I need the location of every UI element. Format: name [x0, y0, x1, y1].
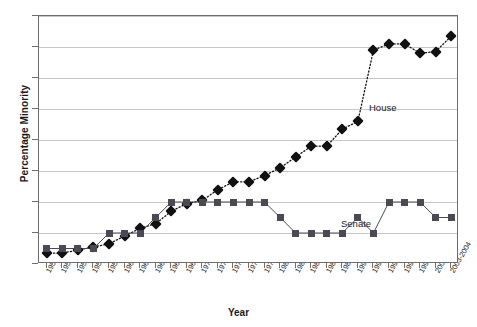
data-point-senate [152, 214, 159, 221]
gridline [39, 47, 457, 48]
data-point-house [103, 238, 114, 249]
series-label-senate: Senate [341, 218, 371, 229]
data-point-senate [292, 230, 299, 237]
data-point-house [290, 151, 301, 162]
data-point-senate [370, 230, 377, 237]
gridline [39, 16, 457, 17]
data-point-senate [432, 214, 439, 221]
data-point-senate [183, 199, 190, 206]
data-point-house [306, 141, 317, 152]
data-point-senate [417, 199, 424, 206]
data-point-senate [230, 199, 237, 206]
data-point-senate [214, 199, 221, 206]
data-point-senate [401, 199, 408, 206]
data-point-house [337, 123, 348, 134]
data-point-senate [43, 245, 50, 252]
data-point-house [446, 30, 457, 41]
data-point-senate [59, 245, 66, 252]
chart-figure: Percentage Minority 0%2%4%6%8%10%12%14%1… [0, 0, 477, 327]
gridline [39, 233, 457, 234]
data-point-senate [90, 245, 97, 252]
gridline [39, 171, 457, 172]
data-point-senate [137, 230, 144, 237]
data-point-senate [339, 230, 346, 237]
data-point-senate [277, 214, 284, 221]
gridline [39, 140, 457, 141]
series-label-house: House [369, 102, 396, 113]
data-point-senate [199, 199, 206, 206]
gridline [39, 78, 457, 79]
data-point-house [321, 141, 332, 152]
x-axis-title: Year [0, 307, 477, 318]
data-point-house [352, 116, 363, 127]
data-point-house [243, 176, 254, 187]
data-point-house [228, 176, 239, 187]
series-line-house [47, 36, 451, 253]
data-point-senate [448, 214, 455, 221]
y-axis-title: Percentage Minority [19, 44, 30, 224]
data-point-senate [386, 199, 393, 206]
data-point-house [166, 206, 177, 217]
data-point-senate [74, 245, 81, 252]
data-point-senate [323, 230, 330, 237]
plot-area: House Senate [38, 15, 458, 263]
data-point-senate [121, 230, 128, 237]
data-point-senate [261, 199, 268, 206]
data-point-house [212, 184, 223, 195]
data-point-senate [246, 199, 253, 206]
y-tick-mark [32, 263, 38, 264]
data-point-senate [106, 230, 113, 237]
data-point-senate [308, 230, 315, 237]
data-point-house [414, 48, 425, 59]
data-point-senate [168, 199, 175, 206]
